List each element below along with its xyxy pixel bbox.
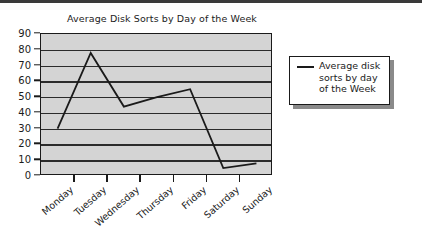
chart-legend: Average disksorts by dayof the Week [289,56,390,105]
x-tick-mark [206,175,207,182]
x-tick-mark [73,175,74,182]
y-tick-label: 10 [18,154,31,165]
y-tick-label: 0 [25,170,31,181]
legend-label-line: of the Week [319,83,387,95]
legend-line-swatch-icon [297,66,314,68]
y-tick-label: 40 [18,106,31,117]
x-tick-label-sunday: Sunday [240,184,274,216]
y-tick-label: 80 [18,43,31,54]
y-tick-label: 50 [18,91,31,102]
plot-wrapper [40,33,272,175]
x-tick-label-friday: Friday [179,184,208,211]
x-tick-label-thursday: Thursday [134,184,175,221]
x-tick-mark [173,175,174,182]
chart-title: Average Disk Sorts by Day of the Week [52,13,272,24]
legend-label-line: sorts by day [319,72,387,84]
legend-label-line: Average disk [319,60,387,72]
x-tick-mark [239,175,240,182]
line-chart-figure: Average Disk Sorts by Day of the Week 90… [0,3,422,239]
x-tick-mark [106,175,107,182]
legend-entry-label: Average disksorts by dayof the Week [319,60,387,95]
y-tick-label: 60 [18,75,31,86]
series-line-layer [41,34,273,176]
y-tick-label: 90 [18,28,31,39]
x-tick-mark [139,175,140,182]
x-tick-label-monday: Monday [40,184,76,217]
y-tick-label: 70 [18,59,31,70]
chart-page: Average Disk Sorts by Day of the Week 90… [0,0,422,239]
series-line-average-disk-sorts [58,53,257,168]
y-tick-label: 20 [18,138,31,149]
y-tick-label: 30 [18,122,31,133]
y-axis: 9080706050403020100 [0,33,40,175]
x-axis: MondayTuesdayWednesdayThursdayFridaySatu… [40,175,272,239]
x-tick-label-saturday: Saturday [202,184,242,220]
plot-area [40,33,272,175]
